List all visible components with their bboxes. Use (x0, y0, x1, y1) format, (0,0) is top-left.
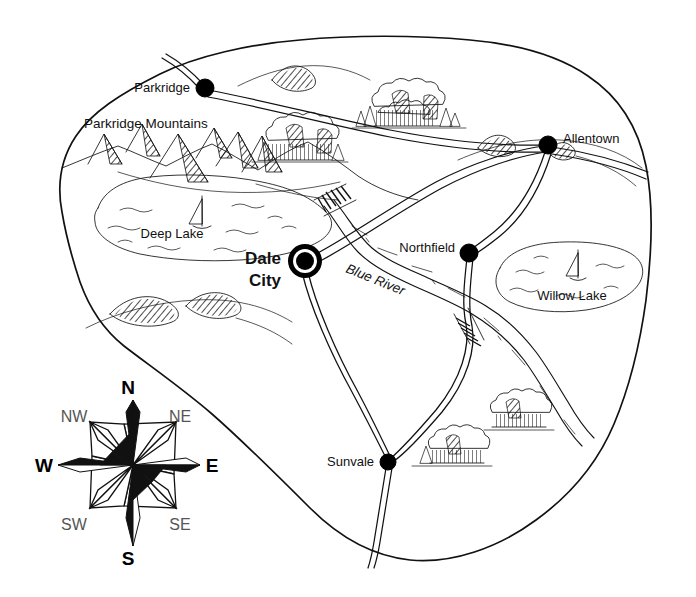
sailboat-icon (189, 196, 211, 229)
sailboat-icon (566, 250, 586, 281)
town-marker-northfield[interactable] (460, 244, 478, 262)
compass-label-west: W (35, 455, 53, 476)
capital-label-dale-city-line1: Dale (245, 249, 281, 268)
town-label-parkridge: Parkridge (134, 80, 190, 95)
town-marker-parkridge[interactable] (196, 79, 214, 97)
compass-label-northwest: NW (61, 408, 89, 425)
compass-label-south: S (122, 548, 135, 569)
tree-cluster (484, 389, 554, 430)
compass-label-north: N (121, 377, 135, 398)
parkridge-mountains-label: Parkridge Mountains (84, 116, 208, 131)
town-label-allentown: Allentown (563, 131, 619, 146)
compass-label-southwest: SW (61, 516, 88, 533)
compass-label-southeast: SE (169, 516, 190, 533)
willow-lake: Willow Lake (496, 242, 643, 312)
bridge-crossing (454, 308, 484, 346)
compass-label-east: E (206, 455, 219, 476)
map-canvas: Deep Lake Willow Lake (0, 0, 696, 597)
willow-lake-label: Willow Lake (537, 288, 606, 303)
town-marker-sunvale[interactable] (380, 454, 396, 470)
compass-label-northeast: NE (169, 408, 191, 425)
town-marker-allentown[interactable] (539, 136, 557, 154)
deep-lake-label: Deep Lake (141, 226, 204, 241)
forest-cluster (352, 78, 466, 128)
tree-cluster (412, 425, 492, 466)
town-label-northfield: Northfield (399, 240, 455, 255)
capital-label-dale-city-line2: City (249, 271, 282, 290)
capital-marker-dale-city[interactable] (288, 244, 322, 278)
town-label-sunvale: Sunvale (327, 454, 374, 469)
